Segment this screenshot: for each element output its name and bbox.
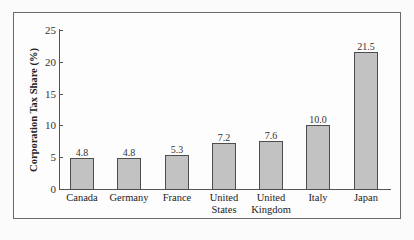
y-tick-label: 5 <box>34 151 56 163</box>
bar-value-label: 7.6 <box>251 130 291 141</box>
bar-canada <box>70 158 94 190</box>
y-tick-label: 15 <box>34 88 56 100</box>
bar-france <box>165 155 189 190</box>
y-tick-label: 20 <box>34 56 56 68</box>
bar-value-label: 5.3 <box>157 144 197 155</box>
bar-value-label: 7.2 <box>204 132 244 143</box>
bar-united-kingdom <box>259 141 283 190</box>
y-tick-label: 25 <box>34 24 56 36</box>
x-tick-label: Japan <box>336 192 396 204</box>
y-tick <box>59 189 63 190</box>
bar-value-label: 4.8 <box>62 147 102 158</box>
y-axis-line <box>59 29 60 189</box>
bar-value-label: 4.8 <box>109 147 149 158</box>
y-tick <box>59 94 63 95</box>
y-tick <box>59 125 63 126</box>
y-tick <box>59 30 63 31</box>
bar-germany <box>117 158 141 190</box>
bar-value-label: 10.0 <box>298 114 338 125</box>
bar-united-states <box>212 143 236 190</box>
bar-value-label: 21.5 <box>346 41 386 52</box>
bar-japan <box>354 52 378 190</box>
y-tick-label: 10 <box>34 119 56 131</box>
bar-italy <box>306 125 330 190</box>
y-tick <box>59 62 63 63</box>
